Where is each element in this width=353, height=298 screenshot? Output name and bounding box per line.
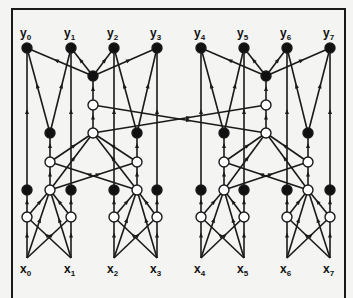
hollow-node	[282, 212, 292, 222]
filled-node	[282, 185, 292, 195]
edge	[224, 133, 266, 162]
label-y0: y0	[20, 26, 32, 42]
edge	[114, 48, 137, 133]
hollow-node	[239, 212, 249, 222]
hollow-node	[152, 212, 162, 222]
hollow-node	[45, 157, 55, 167]
arrowhead-icon	[285, 109, 289, 114]
edge	[201, 48, 266, 76]
filled-node	[152, 185, 162, 195]
label-x6: x6	[280, 262, 292, 278]
arrowhead-icon	[264, 115, 268, 120]
edges	[27, 48, 330, 258]
filled-node	[239, 43, 249, 53]
arrowhead-icon	[199, 232, 203, 237]
filled-node	[325, 185, 335, 195]
filled-node	[109, 43, 119, 53]
arrowhead-icon	[242, 232, 246, 237]
label-y5: y5	[237, 26, 249, 42]
arrowhead-icon	[69, 109, 73, 114]
label-x7: x7	[323, 262, 335, 278]
hollow-node	[261, 128, 271, 138]
nodes	[22, 43, 335, 222]
label-x1: x1	[64, 262, 76, 278]
arrowhead-icon	[328, 199, 332, 204]
arrowhead-icon	[199, 109, 203, 114]
arrowhead-icon	[126, 58, 132, 64]
arrowhead-icon	[112, 232, 116, 237]
arrowhead-icon	[53, 58, 59, 64]
label-y7: y7	[323, 26, 335, 42]
hollow-node	[261, 100, 271, 110]
arrowhead-icon	[328, 109, 332, 114]
arrowhead-icon	[242, 109, 246, 114]
arrowhead-icon	[328, 232, 332, 237]
edge	[201, 48, 224, 133]
arrowhead-icon	[199, 199, 203, 204]
arrowhead-icon	[242, 199, 246, 204]
label-y3: y3	[150, 26, 162, 42]
arrowhead-icon	[112, 199, 116, 204]
arrowhead-icon	[155, 199, 159, 204]
edge	[93, 133, 137, 162]
edge	[27, 48, 93, 76]
label-x0: x0	[20, 262, 32, 278]
arrowhead-icon	[135, 172, 139, 177]
arrowhead-icon	[299, 58, 305, 64]
arrowhead-icon	[222, 172, 226, 177]
filled-node	[152, 43, 162, 53]
hollow-node	[303, 185, 313, 195]
filled-node	[66, 185, 76, 195]
arrowhead-icon	[227, 58, 233, 64]
edge	[224, 48, 244, 133]
filled-node	[282, 43, 292, 53]
hollow-node	[22, 212, 32, 222]
arrowhead-icon	[264, 86, 268, 91]
edge	[50, 48, 71, 133]
label-x5: x5	[237, 262, 249, 278]
arrowhead-icon	[69, 232, 73, 237]
edge	[27, 48, 50, 133]
label-x2: x2	[107, 262, 119, 278]
hollow-node	[325, 212, 335, 222]
label-x3: x3	[150, 262, 162, 278]
filled-node	[219, 128, 229, 138]
arrowhead-icon	[25, 199, 29, 204]
edge	[287, 48, 308, 133]
filled-node	[66, 43, 76, 53]
hollow-node	[219, 185, 229, 195]
edge	[137, 48, 157, 133]
arrowhead-icon	[91, 115, 95, 120]
arrowhead-icon	[285, 232, 289, 237]
arrowhead-icon	[135, 143, 139, 148]
label-x4: x4	[194, 262, 206, 278]
label-y6: y6	[280, 26, 292, 42]
label-y2: y2	[107, 26, 119, 42]
arrowhead-icon	[285, 199, 289, 204]
arrowhead-icon	[155, 232, 159, 237]
arrowhead-icon	[222, 143, 226, 148]
arrowhead-icon	[91, 86, 95, 91]
hollow-node	[66, 212, 76, 222]
hollow-node	[45, 185, 55, 195]
hollow-node	[88, 128, 98, 138]
filled-node	[303, 128, 313, 138]
hollow-node	[132, 185, 142, 195]
arrowhead-icon	[25, 232, 29, 237]
arrowhead-icon	[306, 143, 310, 148]
hollow-node	[303, 157, 313, 167]
arrowhead-icon	[112, 109, 116, 114]
arrowhead-icon	[69, 199, 73, 204]
hollow-node	[109, 212, 119, 222]
filled-node	[196, 43, 206, 53]
arrowhead-icon	[48, 143, 52, 148]
filled-node	[88, 71, 98, 81]
filled-node	[45, 128, 55, 138]
filled-node	[325, 43, 335, 53]
filled-node	[109, 185, 119, 195]
filled-node	[239, 185, 249, 195]
label-y1: y1	[64, 26, 76, 42]
edge	[93, 133, 137, 190]
filled-node	[196, 185, 206, 195]
